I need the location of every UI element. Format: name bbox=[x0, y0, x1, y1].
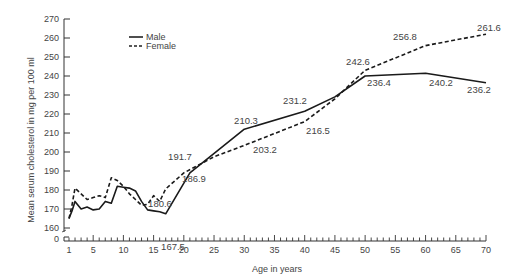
y-tick-label: 250 bbox=[44, 52, 59, 62]
data-label: 256.8 bbox=[393, 31, 417, 42]
x-tick-label: 60 bbox=[421, 245, 431, 255]
data-label: 216.5 bbox=[306, 125, 330, 136]
cholesterol-line-chart: 1601701801902002102202302402502602700 15… bbox=[0, 0, 523, 279]
data-label: 231.2 bbox=[283, 95, 307, 106]
y-tick-label: 230 bbox=[44, 90, 59, 100]
x-axis-title: Age in years bbox=[252, 264, 303, 274]
y-tick-label: 180 bbox=[44, 185, 59, 195]
y-tick-label: 200 bbox=[44, 147, 59, 157]
series-layer bbox=[69, 34, 486, 218]
legend: Male Female bbox=[129, 32, 176, 51]
x-tick-label: 55 bbox=[390, 245, 400, 255]
y-tick-label: 210 bbox=[44, 128, 59, 138]
legend-female-label: Female bbox=[146, 41, 176, 51]
x-tick-label: 35 bbox=[269, 245, 279, 255]
data-label: 167.5 bbox=[161, 241, 185, 252]
x-tick-label: 45 bbox=[330, 245, 340, 255]
annotation-layer: 167.5180.6191.7186.9210.3203.2231.2216.5… bbox=[148, 22, 501, 252]
x-tick-label: 30 bbox=[239, 245, 249, 255]
data-label: 236.2 bbox=[467, 84, 491, 95]
x-tick-label: 65 bbox=[451, 245, 461, 255]
y-tick-label: 170 bbox=[44, 204, 59, 214]
data-label: 261.6 bbox=[477, 22, 501, 33]
series-male-line bbox=[69, 73, 486, 218]
data-label: 191.7 bbox=[168, 151, 192, 162]
x-tick-label: 15 bbox=[149, 245, 159, 255]
y-tick-label: 260 bbox=[44, 33, 59, 43]
y-tick-label: 190 bbox=[44, 166, 59, 176]
y-tick-label: 270 bbox=[44, 14, 59, 24]
y-tick-label: 160 bbox=[44, 223, 59, 233]
y-axis-title: Mean serum cholesterol in mg per 100 ml bbox=[26, 57, 36, 223]
y-tick-label: 220 bbox=[44, 109, 59, 119]
data-label: 203.2 bbox=[253, 144, 277, 155]
series-female-line bbox=[69, 34, 486, 218]
x-tick-label: 1 bbox=[66, 245, 71, 255]
x-tick-label: 50 bbox=[360, 245, 370, 255]
x-tick-label: 40 bbox=[300, 245, 310, 255]
data-label: 180.6 bbox=[148, 198, 172, 209]
data-label: 240.2 bbox=[429, 77, 453, 88]
x-tick-label: 10 bbox=[118, 245, 128, 255]
y-tick-label-zero: 0 bbox=[54, 234, 59, 244]
x-tick-label: 5 bbox=[91, 245, 96, 255]
x-tick-label: 70 bbox=[481, 245, 491, 255]
data-label: 242.6 bbox=[346, 56, 370, 67]
data-label: 186.9 bbox=[182, 173, 206, 184]
y-axis: 1601701801902002102202302402502602700 bbox=[44, 14, 70, 244]
x-tick-label: 25 bbox=[209, 245, 219, 255]
data-label: 236.4 bbox=[367, 77, 391, 88]
data-label: 210.3 bbox=[234, 115, 258, 126]
y-tick-label: 240 bbox=[44, 71, 59, 81]
x-axis: 1510152025303540455055606570 bbox=[64, 235, 491, 255]
